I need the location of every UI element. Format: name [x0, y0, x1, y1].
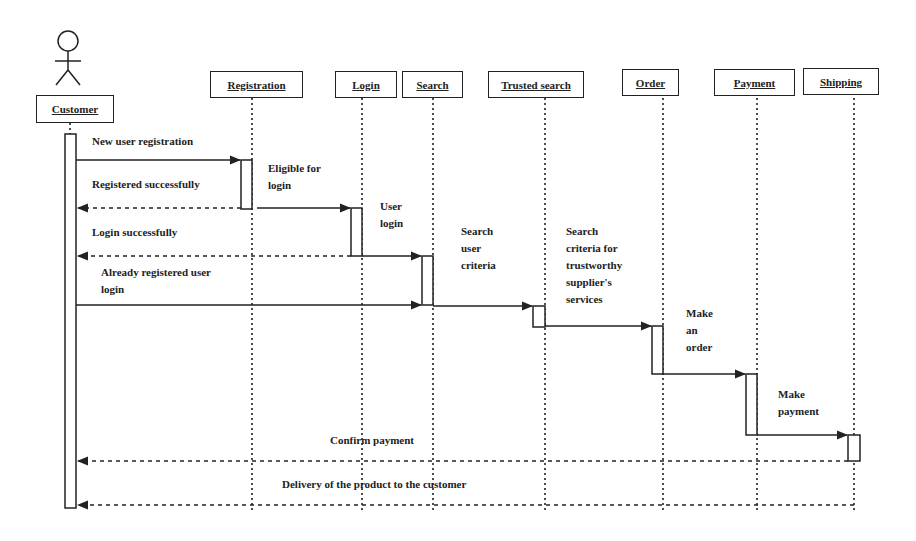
label-search-user-criteria-line1: Search — [461, 223, 496, 240]
label-eligible-line1: Eligible for — [268, 160, 321, 177]
label-user-login-line1: User — [380, 198, 403, 215]
actor-stick-figure-icon — [55, 31, 81, 85]
activation-payment — [746, 374, 757, 435]
label-make-order-line3: order — [686, 339, 713, 356]
label-already-registered-line1: Already registered user — [101, 264, 211, 281]
label-eligible-line2: login — [268, 177, 321, 194]
activation-trusted-search — [533, 306, 545, 327]
label-trustworthy-line3: trustworthy — [566, 257, 622, 274]
object-login-box: Login — [335, 71, 397, 98]
activation-order — [652, 326, 663, 374]
object-trusted-search-box: Trusted search — [488, 71, 584, 98]
sequence-diagram: Customer Registration Login Search Trust… — [0, 0, 916, 541]
label-user-login: User login — [380, 198, 403, 232]
label-trustworthy-search: Search criteria for trustworthy supplier… — [566, 223, 622, 308]
label-trustworthy-line5: services — [566, 291, 622, 308]
label-confirm-payment: Confirm payment — [330, 432, 414, 449]
label-search-user-criteria: Search user criteria — [461, 223, 496, 274]
label-make-payment-line1: Make — [778, 386, 819, 403]
label-already-registered-line2: login — [101, 281, 211, 298]
label-make-order-line2: an — [686, 322, 713, 339]
label-new-user-registration: New user registration — [92, 133, 193, 150]
label-trustworthy-line2: criteria for — [566, 240, 622, 257]
label-search-user-criteria-line3: criteria — [461, 257, 496, 274]
object-payment-box: Payment — [714, 69, 795, 96]
activation-search — [422, 256, 433, 305]
activation-shipping — [848, 435, 860, 461]
label-make-payment: Make payment — [778, 386, 819, 420]
activation-customer — [65, 134, 76, 508]
label-make-order-line1: Make — [686, 305, 713, 322]
label-search-user-criteria-line2: user — [461, 240, 496, 257]
label-user-login-line2: login — [380, 215, 403, 232]
activation-login — [351, 208, 362, 256]
object-registration-box: Registration — [210, 71, 303, 98]
label-delivery: Delivery of the product to the customer — [282, 476, 466, 493]
label-make-order: Make an order — [686, 305, 713, 356]
object-search-box: Search — [402, 71, 463, 98]
label-login-successfully: Login successfully — [92, 224, 177, 241]
label-already-registered: Already registered user login — [101, 264, 211, 298]
object-shipping-box: Shipping — [803, 68, 879, 95]
actor-customer-box: Customer — [36, 95, 114, 123]
label-registered-successfully: Registered successfully — [92, 176, 200, 193]
activation-registration — [241, 160, 252, 209]
label-eligible-for-login: Eligible for login — [268, 160, 321, 194]
label-trustworthy-line1: Search — [566, 223, 622, 240]
label-trustworthy-line4: supplier's — [566, 274, 622, 291]
object-order-box: Order — [622, 69, 679, 96]
label-make-payment-line2: payment — [778, 403, 819, 420]
